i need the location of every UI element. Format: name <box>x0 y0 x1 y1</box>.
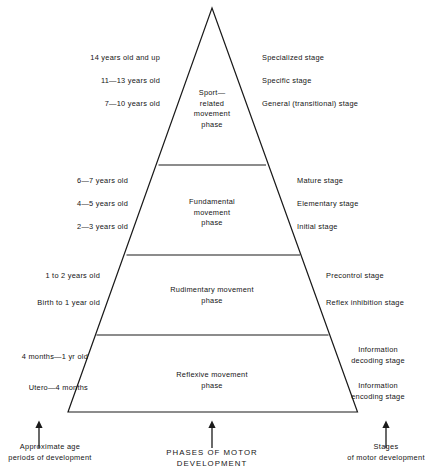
stage-label-general-transitional: General (transitional) stage <box>262 99 427 110</box>
caption-phases-of-motor-development: PHASES OF MOTOR DEVELOPMENT <box>132 448 292 469</box>
phase-label-reflexive: Reflexive movement phase <box>147 370 277 391</box>
stage-line: Information <box>330 345 426 356</box>
pyramid-diagram <box>0 0 432 475</box>
phase-line: Sport— <box>172 88 252 99</box>
phase-line: Rudimentary movement <box>147 285 277 296</box>
phase-line: movement <box>172 109 252 120</box>
phase-line: phase <box>147 381 277 392</box>
stage-label-precontrol: Precontrol stage <box>326 271 432 282</box>
age-label-4-months-1-yr: 4 months—1 yr old <box>0 352 88 363</box>
caption-line: Approximate age <box>0 442 100 453</box>
phase-line: phase <box>147 296 277 307</box>
age-label-6-7: 6—7 years old <box>10 176 128 187</box>
age-label-1-to-2-years: 1 to 2 years old <box>0 271 100 282</box>
phase-label-rudimentary: Rudimentary movement phase <box>147 285 277 306</box>
caption-approximate-age-periods: Approximate age periods of development <box>0 442 100 463</box>
stage-label-information-decoding: Information decoding stage <box>330 345 426 366</box>
age-label-11-13: 11—13 years old <box>20 76 160 87</box>
age-label-birth-to-1-year: Birth to 1 year old <box>0 298 100 309</box>
caption-line: Stages <box>312 442 432 453</box>
phase-line: phase <box>172 120 252 131</box>
stage-label-mature: Mature stage <box>297 176 429 187</box>
age-label-7-10: 7—10 years old <box>20 99 160 110</box>
stage-line: decoding stage <box>330 356 426 367</box>
caption-line: of motor development <box>312 453 432 464</box>
caption-stages-of-motor-development: Stages of motor development <box>312 442 432 463</box>
phase-line: Reflexive movement <box>147 370 277 381</box>
age-label-2-3: 2—3 years old <box>10 222 128 233</box>
stage-label-reflex-inhibition: Reflex inhibition stage <box>326 298 432 309</box>
motor-development-pyramid-figure: Sport— related movement phase 14 years o… <box>0 0 432 475</box>
phase-line: related <box>172 99 252 110</box>
stage-label-specific: Specific stage <box>262 76 427 87</box>
stage-line: Information <box>330 381 426 392</box>
stage-line: encoding stage <box>330 392 426 403</box>
stage-label-initial: Initial stage <box>297 222 429 233</box>
phase-line: movement <box>172 208 252 219</box>
phase-line: Fundamental <box>172 197 252 208</box>
phase-line: phase <box>172 218 252 229</box>
age-label-4-5: 4—5 years old <box>10 199 128 210</box>
caption-line: periods of development <box>0 453 100 464</box>
age-label-14-and-up: 14 years old and up <box>20 53 160 64</box>
arrow-center-caption <box>208 421 215 449</box>
stage-label-information-encoding: Information encoding stage <box>330 381 426 402</box>
stage-label-specialized: Specialized stage <box>262 53 427 64</box>
age-label-utero-4-months: Utero—4 months <box>0 383 88 394</box>
phase-label-sport-related: Sport— related movement phase <box>172 88 252 130</box>
stage-label-elementary: Elementary stage <box>297 199 429 210</box>
phase-label-fundamental: Fundamental movement phase <box>172 197 252 229</box>
